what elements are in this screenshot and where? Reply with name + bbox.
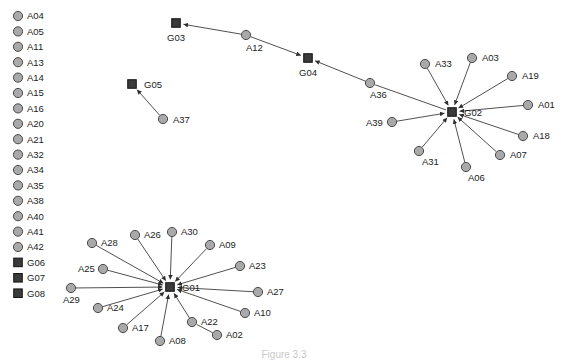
legend-item-a05[interactable]: A05 — [13, 26, 44, 37]
node-label-a09: A09 — [219, 239, 236, 250]
legend-label-a04: A04 — [27, 10, 44, 21]
actor-marker-icon — [212, 330, 221, 339]
node-a29[interactable]: A29 — [63, 283, 80, 305]
edge-a37-g05 — [137, 90, 159, 115]
legend-item-a34[interactable]: A34 — [13, 164, 44, 175]
legend-item-a42[interactable]: A42 — [13, 241, 44, 252]
node-g04[interactable]: G04 — [299, 54, 317, 78]
actor-marker-icon — [13, 212, 22, 221]
legend-label-a21: A21 — [27, 134, 44, 145]
node-a31[interactable]: A31 — [414, 146, 439, 167]
node-g05[interactable]: G05 — [128, 79, 162, 90]
node-label-g05: G05 — [144, 79, 162, 90]
group-marker-icon — [172, 19, 181, 28]
node-g01[interactable]: G01 — [166, 282, 200, 293]
actor-marker-icon — [240, 308, 249, 317]
actor-marker-icon — [467, 53, 476, 62]
node-a07[interactable]: A07 — [495, 149, 527, 160]
actor-marker-icon — [523, 100, 532, 109]
legend-label-g06: G06 — [27, 257, 45, 268]
figure-caption: Figure 3.3 — [261, 349, 306, 360]
legend-item-a11[interactable]: A11 — [13, 41, 43, 52]
edge-a03-g02 — [455, 63, 470, 105]
legend-layer: A04A05A11A13A14A15A16A20A21A32A34A35A38A… — [13, 10, 45, 298]
legend-item-a13[interactable]: A13 — [13, 57, 44, 68]
node-a28[interactable]: A28 — [87, 237, 118, 248]
legend-label-a38: A38 — [27, 195, 44, 206]
node-a33[interactable]: A33 — [420, 58, 452, 69]
group-marker-icon — [128, 80, 137, 89]
legend-label-a40: A40 — [27, 211, 44, 222]
node-a01[interactable]: A01 — [523, 99, 555, 110]
node-label-a17: A17 — [132, 322, 149, 333]
legend-item-a35[interactable]: A35 — [13, 180, 44, 191]
node-label-a18: A18 — [533, 130, 550, 141]
actor-marker-icon — [253, 287, 262, 296]
actor-marker-icon — [420, 59, 429, 68]
legend-item-a21[interactable]: A21 — [13, 134, 44, 145]
legend-label-a32: A32 — [27, 149, 44, 160]
legend-item-a40[interactable]: A40 — [13, 211, 44, 222]
legend-item-a14[interactable]: A14 — [13, 72, 44, 83]
legend-item-a41[interactable]: A41 — [13, 226, 44, 237]
group-marker-icon — [304, 54, 313, 63]
actor-marker-icon — [387, 117, 396, 126]
node-a23[interactable]: A23 — [235, 260, 266, 271]
node-label-g02: G02 — [464, 107, 482, 118]
node-a10[interactable]: A10 — [240, 307, 271, 318]
node-a24[interactable]: A24 — [93, 302, 124, 313]
node-a27[interactable]: A27 — [253, 286, 284, 297]
node-label-a24: A24 — [107, 302, 124, 313]
actor-marker-icon — [66, 283, 75, 292]
legend-item-a38[interactable]: A38 — [13, 195, 44, 206]
actor-marker-icon — [158, 114, 167, 123]
node-g02[interactable]: G02 — [448, 107, 482, 118]
node-a39[interactable]: A39 — [366, 117, 397, 128]
legend-label-a34: A34 — [27, 164, 44, 175]
node-a22[interactable]: A22 — [187, 316, 218, 327]
node-a12[interactable]: A12 — [241, 30, 263, 53]
node-label-a10: A10 — [254, 307, 271, 318]
node-a08[interactable]: A08 — [155, 335, 186, 346]
actor-marker-icon — [13, 181, 22, 190]
edge-a39-g02 — [397, 113, 444, 121]
actor-marker-icon — [13, 104, 22, 113]
actor-marker-icon — [118, 323, 127, 332]
node-label-a19: A19 — [522, 70, 539, 81]
node-a09[interactable]: A09 — [205, 239, 236, 250]
legend-item-g08[interactable]: G08 — [14, 288, 45, 299]
node-a37[interactable]: A37 — [158, 114, 190, 125]
legend-item-g07[interactable]: G07 — [14, 272, 45, 283]
node-label-a02: A02 — [226, 329, 243, 340]
node-label-g03: G03 — [167, 32, 185, 43]
edge-a12-g03 — [184, 24, 241, 34]
legend-label-g07: G07 — [27, 272, 45, 283]
edge-a06-g02 — [454, 120, 465, 162]
legend-item-a04[interactable]: A04 — [13, 10, 44, 21]
actor-marker-icon — [13, 11, 22, 20]
node-a17[interactable]: A17 — [118, 322, 149, 333]
legend-label-a14: A14 — [27, 72, 44, 83]
group-marker-icon — [14, 289, 23, 298]
node-a18[interactable]: A18 — [518, 130, 550, 141]
legend-item-g06[interactable]: G06 — [14, 257, 45, 268]
edge-a29-g01 — [76, 287, 162, 288]
legend-label-a13: A13 — [27, 57, 44, 68]
edge-a26-g01 — [138, 239, 166, 280]
node-a06[interactable]: A06 — [461, 162, 485, 183]
node-a19[interactable]: A19 — [507, 70, 539, 81]
node-a30[interactable]: A30 — [167, 226, 198, 237]
node-a36[interactable]: A36 — [365, 78, 387, 100]
legend-item-a16[interactable]: A16 — [13, 103, 44, 114]
legend-item-a32[interactable]: A32 — [13, 149, 44, 160]
node-a26[interactable]: A26 — [130, 229, 161, 240]
legend-item-a15[interactable]: A15 — [13, 87, 44, 98]
actor-marker-icon — [87, 238, 96, 247]
edge-a17-g01 — [127, 292, 164, 324]
legend-item-a20[interactable]: A20 — [13, 118, 44, 129]
node-a02[interactable]: A02 — [212, 329, 243, 340]
group-marker-icon — [14, 258, 23, 267]
node-a25[interactable]: A25 — [78, 263, 108, 274]
node-g03[interactable]: G03 — [167, 19, 185, 43]
node-a03[interactable]: A03 — [467, 52, 499, 63]
